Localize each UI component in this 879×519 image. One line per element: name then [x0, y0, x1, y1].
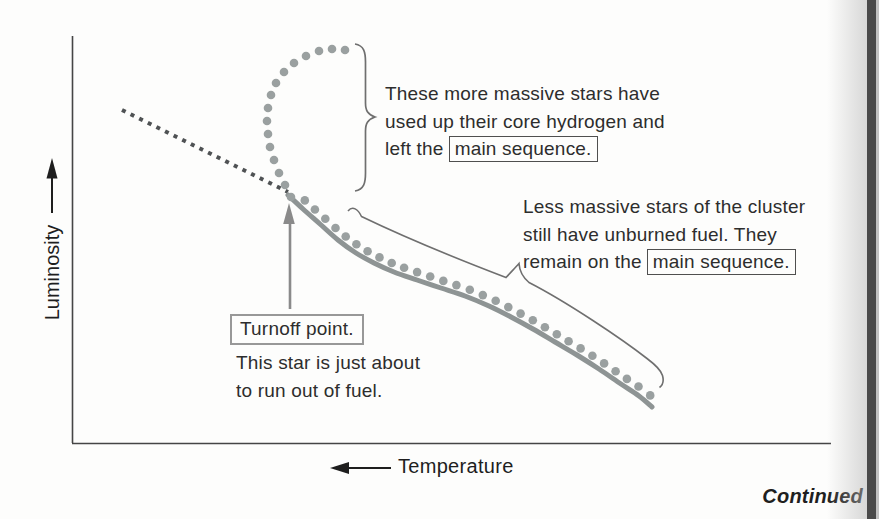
massive-stars-annotation: These more massive stars have used up th… — [385, 80, 665, 163]
giant-branch-dots — [263, 45, 350, 202]
turnoff-line-2: to run out of fuel. — [236, 377, 420, 405]
page-edge-bar — [867, 0, 876, 519]
less-massive-line-3-prefix: remain on the — [523, 251, 642, 272]
turnoff-annotation: Turnoff point. This star is just about t… — [230, 314, 420, 404]
luminosity-arrow-icon — [47, 158, 58, 213]
temperature-arrow-icon — [330, 462, 391, 474]
massive-line-2: used up their core hydrogen and — [385, 108, 665, 136]
turnoff-point-box-label: Turnoff point. — [230, 314, 364, 345]
page-gutter-shade — [827, 0, 867, 519]
x-axis-label: Temperature — [398, 455, 514, 478]
less-massive-line-2: still have unburned fuel. They — [523, 221, 805, 249]
turnoff-line-1: This star is just about — [236, 349, 420, 377]
book-page: Luminosity Temperature These more massiv… — [0, 0, 879, 519]
main-sequence-box-label: main sequence. — [449, 136, 598, 162]
massive-line-3-prefix: left the — [385, 138, 444, 159]
massive-brace — [355, 44, 375, 191]
less-massive-line-1: Less massive stars of the cluster — [523, 193, 805, 221]
y-axis-label: Luminosity — [41, 223, 64, 323]
less-massive-stars-annotation: Less massive stars of the cluster still … — [523, 193, 805, 276]
turnoff-arrow-icon — [283, 203, 295, 309]
turnoff-text: This star is just about to run out of fu… — [236, 349, 420, 404]
massive-line-1: These more massive stars have — [385, 80, 665, 108]
main-sequence-box-label: main sequence. — [647, 249, 796, 275]
